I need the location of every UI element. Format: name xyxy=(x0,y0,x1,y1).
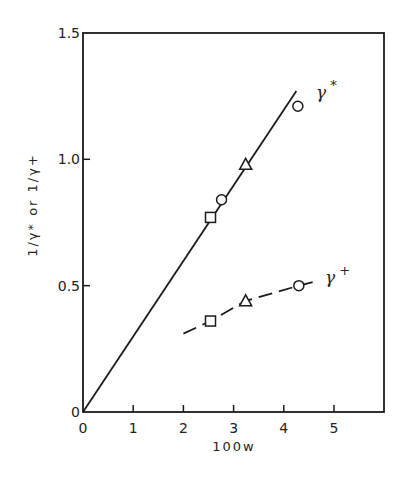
series-label: γ+ xyxy=(325,263,350,287)
square-marker-icon xyxy=(206,212,216,222)
axis-ticks: 01234500.51.01.5 xyxy=(58,25,339,436)
y-tick-label: 0 xyxy=(71,404,80,420)
series-label: γ* xyxy=(316,78,337,102)
y-axis-title: 1/γ* or 1/γ+ xyxy=(25,153,40,257)
circle-marker-icon xyxy=(293,101,303,111)
series-line xyxy=(83,91,296,412)
x-tick-label: 5 xyxy=(330,420,339,436)
y-tick-label: 1.5 xyxy=(58,25,80,41)
plot-border xyxy=(83,33,384,412)
y-tick-label: 0.5 xyxy=(58,278,80,294)
x-tick-label: 0 xyxy=(79,420,88,436)
circle-marker-icon xyxy=(294,281,304,291)
y-tick-label: 1.0 xyxy=(58,151,80,167)
x-axis-title: 100w xyxy=(212,439,255,454)
x-tick-label: 3 xyxy=(229,420,238,436)
chart-canvas: 01234500.51.01.5 γ*γ+100w1/γ* or 1/γ+ xyxy=(0,0,403,477)
chart-labels: γ*γ+100w1/γ* or 1/γ+ xyxy=(25,78,350,454)
square-marker-icon xyxy=(206,316,216,326)
circle-marker-icon xyxy=(217,195,227,205)
x-tick-label: 2 xyxy=(179,420,188,436)
x-tick-label: 1 xyxy=(129,420,138,436)
series-lines xyxy=(83,91,319,412)
x-tick-label: 4 xyxy=(279,420,288,436)
data-markers xyxy=(206,101,304,326)
plot-frame xyxy=(83,33,384,412)
